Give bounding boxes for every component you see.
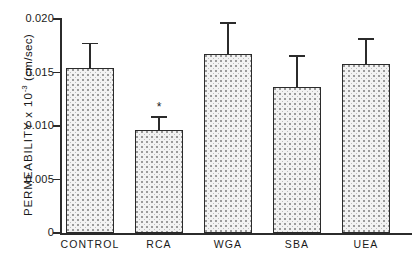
error-bar-cap (151, 116, 167, 118)
bar-uea (342, 64, 390, 233)
error-bar-stem (296, 55, 298, 87)
y-tick-label: 0.010 (10, 120, 54, 131)
bar-sba (273, 87, 321, 233)
y-tick-mark (53, 18, 62, 20)
bar-wga (204, 54, 252, 233)
y-tick-label: 0.015 (10, 67, 54, 78)
error-bar-stem (365, 38, 367, 64)
y-tick-label: 0.020 (10, 13, 54, 24)
x-tick-label-uea: UEA (321, 238, 411, 250)
error-bar-cap (220, 22, 236, 24)
y-axis-spine (60, 19, 62, 235)
error-bar-cap (358, 38, 374, 40)
error-bar-cap (82, 43, 98, 45)
y-tick-mark (53, 179, 62, 181)
bar-rca (135, 130, 183, 233)
error-bar-stem (158, 116, 160, 130)
x-axis-spine (60, 233, 412, 235)
y-axis-tick-labels: 0.0200.0150.0100.0050 (4, 0, 54, 265)
error-bar-stem (89, 43, 91, 69)
error-bar-stem (227, 22, 229, 54)
bar-chart-figure: PERMEABILITY x 10-3 (cm/sec) 0.0200.0150… (0, 0, 419, 265)
y-tick-mark (53, 232, 62, 234)
y-tick-label: 0 (10, 227, 54, 238)
error-bar-cap (289, 55, 305, 57)
y-tick-mark (53, 72, 62, 74)
y-tick-mark (53, 125, 62, 127)
bar-control (66, 68, 114, 233)
y-tick-label: 0.005 (10, 174, 54, 185)
significance-marker: * (152, 103, 166, 111)
